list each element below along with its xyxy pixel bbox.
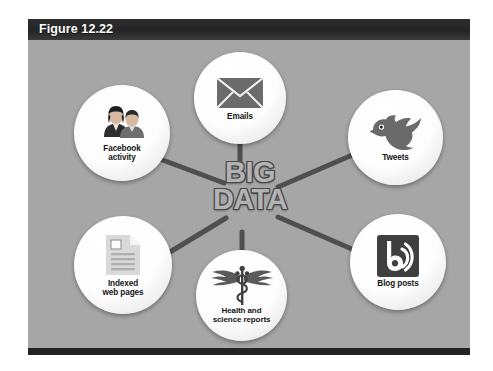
figure-frame: Figure 12.22 BIG DATA [28, 19, 470, 355]
node-indexed-web-pages[interactable]: Indexed web pages [74, 216, 172, 314]
connector-tweets-center [278, 153, 357, 187]
connector-blog-center [278, 217, 361, 253]
node-facebook-activity[interactable]: Facebook activity [74, 85, 170, 181]
node-emails[interactable]: Emails [194, 52, 286, 144]
node-label-tweets: Tweets [382, 153, 409, 162]
node-label-emails: Emails [227, 112, 253, 121]
twitter-bird-icon [369, 113, 423, 151]
node-tweets[interactable]: Tweets [348, 90, 443, 185]
connector-indexed-center [165, 218, 226, 255]
figure-page: Figure 12.22 BIG DATA [0, 0, 493, 371]
node-label-indexed-web-pages: Indexed web pages [103, 279, 144, 297]
figure-header-bar: Figure 12.22 [28, 19, 470, 40]
node-health-science-reports[interactable]: Health and science reports [196, 250, 287, 341]
envelope-icon [216, 75, 264, 111]
document-page-icon [103, 233, 143, 277]
node-label-facebook-activity: Facebook activity [103, 144, 140, 162]
caduceus-icon [209, 266, 275, 306]
blog-rss-icon [377, 235, 419, 277]
connector-facebook-center [160, 159, 224, 183]
node-label-health-science-reports: Health and science reports [213, 307, 271, 325]
figure-footer-bar [28, 348, 470, 355]
node-blog-posts[interactable]: Blog posts [350, 214, 446, 310]
diagram-canvas: BIG DATA [28, 40, 470, 348]
two-people-icon [96, 104, 148, 142]
node-label-blog-posts: Blog posts [377, 279, 418, 288]
figure-title: Figure 12.22 [39, 22, 113, 36]
